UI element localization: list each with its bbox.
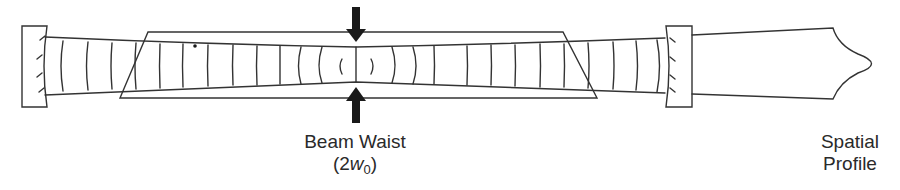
formula-close: ) <box>371 153 377 174</box>
spatial-profile-line1: Spatial <box>800 131 900 153</box>
spatial-profile-label: Spatial Profile <box>800 131 900 175</box>
resonator-diagram <box>0 0 900 190</box>
formula-open: (2 <box>333 153 350 174</box>
beam-waist-label: Beam Waist (2w0) <box>285 131 425 181</box>
right-mirror <box>666 26 692 107</box>
dot-marker <box>193 44 197 48</box>
beam-waist-formula: (2w0) <box>285 153 425 181</box>
output-beam-profile <box>692 28 872 99</box>
intracavity-beam <box>45 37 665 95</box>
beam-waist-title: Beam Waist <box>285 131 425 153</box>
formula-sub: 0 <box>364 162 371 177</box>
formula-var: w <box>350 153 364 174</box>
arrow-down-icon <box>346 7 366 42</box>
left-mirror <box>22 26 47 107</box>
arrow-up-icon <box>346 87 366 123</box>
spatial-profile-line2: Profile <box>800 153 900 175</box>
